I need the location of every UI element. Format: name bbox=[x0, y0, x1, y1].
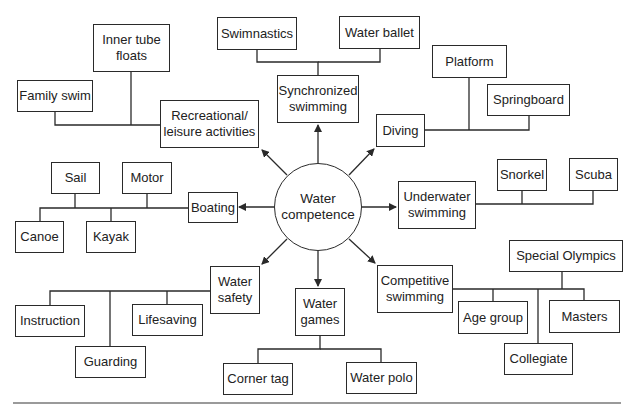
center-node-water-competence: Water competence bbox=[274, 163, 362, 251]
node-recreational-leisure: Recreational/ leisure activities bbox=[160, 100, 259, 148]
node-instruction: Instruction bbox=[15, 305, 85, 337]
node-motor: Motor bbox=[122, 162, 172, 194]
node-masters: Masters bbox=[549, 300, 620, 333]
node-inner-tube-floats: Inner tube floats bbox=[93, 24, 170, 72]
node-platform: Platform bbox=[432, 45, 507, 78]
water-competence-diagram: Water competence Swimnastics Water balle… bbox=[0, 0, 633, 414]
node-canoe: Canoe bbox=[15, 221, 64, 253]
node-water-safety: Water safety bbox=[210, 266, 260, 314]
node-boating: Boating bbox=[188, 192, 238, 223]
node-special-olympics: Special Olympics bbox=[509, 240, 623, 272]
node-scuba: Scuba bbox=[569, 158, 618, 191]
node-kayak: Kayak bbox=[86, 221, 136, 253]
node-underwater-swimming: Underwater swimming bbox=[398, 181, 476, 229]
node-water-polo: Water polo bbox=[346, 362, 417, 394]
node-synchronized-swimming: Synchronized swimming bbox=[277, 75, 359, 123]
node-water-games: Water games bbox=[295, 288, 345, 336]
node-collegiate: Collegiate bbox=[504, 343, 573, 375]
node-age-group: Age group bbox=[458, 301, 528, 334]
node-sail: Sail bbox=[51, 162, 100, 194]
node-competitive-swimming: Competitive swimming bbox=[377, 265, 453, 313]
node-water-ballet: Water ballet bbox=[339, 16, 420, 49]
node-snorkel: Snorkel bbox=[497, 159, 547, 191]
node-family-swim: Family swim bbox=[17, 80, 93, 112]
node-springboard: Springboard bbox=[487, 84, 570, 116]
node-swimnastics: Swimnastics bbox=[217, 17, 297, 50]
node-corner-tag: Corner tag bbox=[223, 363, 293, 395]
node-diving: Diving bbox=[376, 114, 425, 147]
bottom-divider bbox=[13, 402, 621, 404]
node-guarding: Guarding bbox=[75, 346, 146, 378]
node-lifesaving: Lifesaving bbox=[132, 304, 203, 336]
